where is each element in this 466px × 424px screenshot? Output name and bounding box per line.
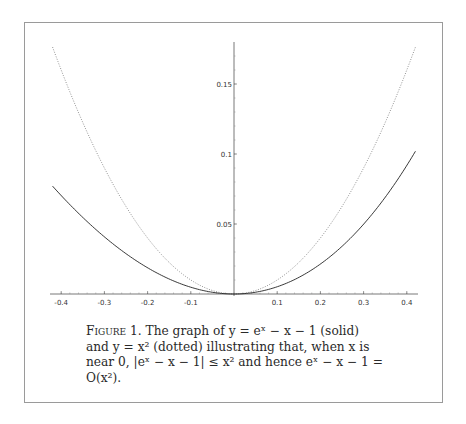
y-tick-label: 0.1: [221, 151, 232, 159]
caption-line-1: Figure 1. The graph of y = eˣ − x − 1 (s…: [86, 324, 386, 340]
x-tick-label: -0.1: [184, 299, 198, 307]
caption-line-4: O(x²).: [86, 371, 386, 387]
x-tick-label: 0.3: [358, 299, 369, 307]
x-tick-label: -0.4: [54, 299, 68, 307]
x-tick-label: 0.1: [272, 299, 283, 307]
x-tick-label: -0.3: [98, 299, 112, 307]
x-tick-label: 0.4: [401, 299, 413, 307]
caption-line-1-text: The graph of y = eˣ − x − 1 (solid): [146, 324, 360, 338]
y-tick-label: 0.15: [216, 81, 232, 89]
x-tick-label: 0.2: [315, 299, 326, 307]
caption-line-2: and y = x² (dotted) illustrating that, w…: [86, 340, 386, 356]
figure-label: Figure 1.: [86, 324, 142, 338]
x-tick-label: -0.2: [141, 299, 155, 307]
caption-line-3: near 0, |eˣ − x − 1| ≤ x² and hence eˣ −…: [86, 355, 386, 371]
y-tick-label: 0.05: [216, 221, 232, 229]
figure-caption: Figure 1. The graph of y = eˣ − x − 1 (s…: [86, 324, 386, 386]
